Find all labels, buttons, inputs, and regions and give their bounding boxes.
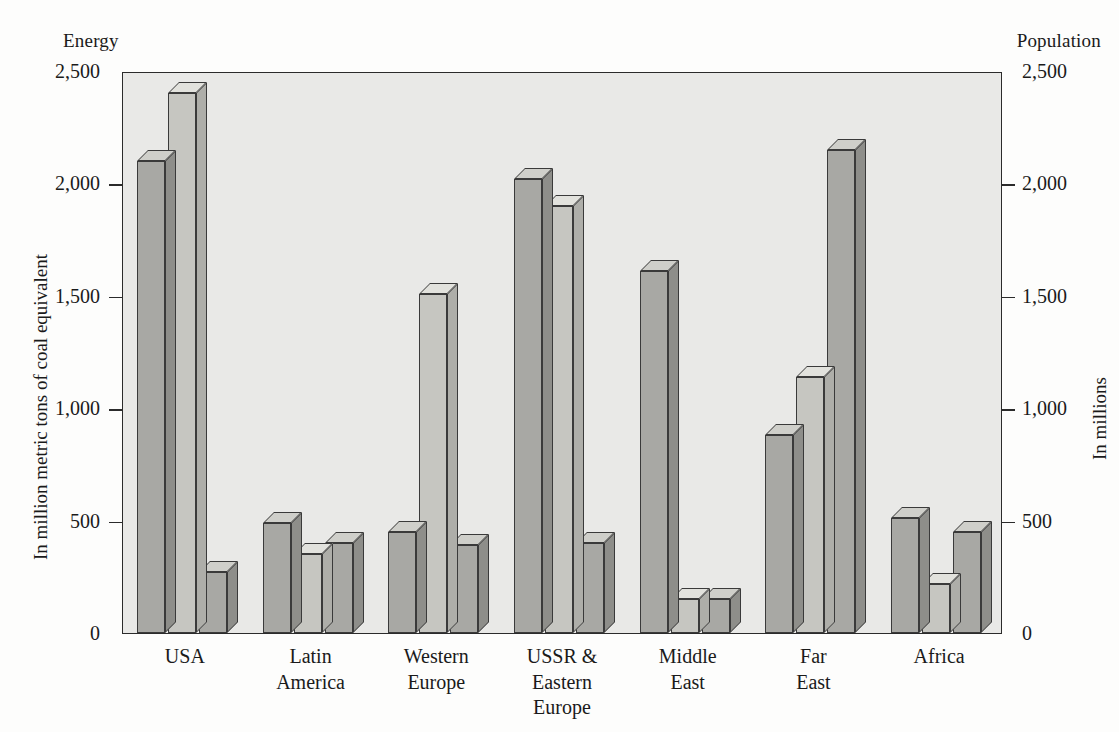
y-axis-tick-label-right: 1,500 xyxy=(1022,286,1067,306)
x-axis-category-label: USSR & Eastern Europe xyxy=(499,644,625,721)
bar-side-face xyxy=(291,512,302,633)
y-axis-tick-label-left: 2,000 xyxy=(0,173,100,193)
bar-side-face xyxy=(604,532,615,633)
bar-side-face xyxy=(353,532,364,633)
bar-side-face xyxy=(573,195,584,633)
y-axis-tick-mark-right xyxy=(1001,409,1015,410)
plot-area xyxy=(122,72,1002,634)
y-axis-tick-mark-right xyxy=(1001,184,1015,185)
x-axis-category-label: Middle East xyxy=(625,644,751,695)
bar xyxy=(388,532,416,633)
y-axis-tick-label-left: 1,500 xyxy=(0,286,100,306)
right-axis-title: In millions xyxy=(1089,377,1111,460)
chart-figure: Energy Population In million metric tons… xyxy=(0,0,1119,732)
bar-front-face xyxy=(137,161,165,633)
bar-front-face xyxy=(765,435,793,633)
y-axis-tick-mark-left xyxy=(109,522,123,523)
x-axis-category-label: Far East xyxy=(751,644,877,695)
x-axis-category-label: USA xyxy=(122,644,248,670)
bar xyxy=(891,518,919,633)
bar-side-face xyxy=(227,561,238,633)
bar xyxy=(514,179,542,633)
y-axis-tick-mark-left xyxy=(109,297,123,298)
bar-side-face xyxy=(447,283,458,633)
y-axis-tick-label-right: 0 xyxy=(1022,623,1032,643)
x-axis-category-label: Africa xyxy=(876,644,1002,670)
bar xyxy=(640,271,668,633)
y-axis-tick-mark-right xyxy=(1001,297,1015,298)
y-axis-tick-label-right: 2,500 xyxy=(1022,61,1067,81)
bar-front-face xyxy=(640,271,668,633)
y-axis-tick-label-right: 500 xyxy=(1022,511,1052,531)
bar-front-face xyxy=(388,532,416,633)
bar-side-face xyxy=(981,521,992,633)
y-axis-tick-label-left: 0 xyxy=(0,623,100,643)
bar-side-face xyxy=(196,82,207,633)
bar-side-face xyxy=(416,521,427,633)
y-axis-tick-label-right: 1,000 xyxy=(1022,398,1067,418)
bar-front-face xyxy=(891,518,919,633)
y-axis-tick-label-left: 1,000 xyxy=(0,398,100,418)
bar-side-face xyxy=(824,366,835,633)
y-axis-tick-label-left: 500 xyxy=(0,511,100,531)
y-axis-tick-mark-right xyxy=(1001,522,1015,523)
bar-side-face xyxy=(793,424,804,633)
bar-side-face xyxy=(478,534,489,633)
bar xyxy=(765,435,793,633)
left-axis-caption: Energy xyxy=(63,30,119,52)
bar-side-face xyxy=(668,260,679,633)
bar-side-face xyxy=(919,507,930,633)
right-axis-caption: Population xyxy=(1017,30,1101,52)
y-axis-tick-label-right: 2,000 xyxy=(1022,173,1067,193)
bar-side-face xyxy=(855,139,866,633)
bar-side-face xyxy=(165,150,176,633)
bars-container xyxy=(123,73,1001,633)
y-axis-tick-label-left: 2,500 xyxy=(0,61,100,81)
bar-front-face xyxy=(263,523,291,633)
bar-side-face xyxy=(542,168,553,633)
bar xyxy=(263,523,291,633)
x-axis-category-label: Latin America xyxy=(248,644,374,695)
bar xyxy=(137,161,165,633)
x-axis-category-label: Western Europe xyxy=(373,644,499,695)
bar-side-face xyxy=(322,543,333,633)
y-axis-tick-mark-left xyxy=(109,184,123,185)
bar-front-face xyxy=(514,179,542,633)
y-axis-tick-mark-left xyxy=(109,409,123,410)
